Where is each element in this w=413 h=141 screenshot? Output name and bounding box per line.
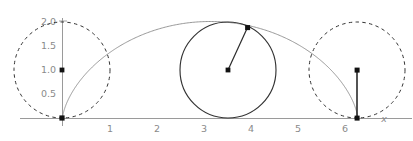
y-tick-label-1-0: 1.0 [41,64,56,75]
marker-circle-start-center [60,68,65,73]
axes-group [20,18,412,126]
marker-origin-point [59,115,64,120]
x-tick-label-1: 1 [107,123,113,134]
x-tick-label-2: 2 [154,123,160,134]
point-markers-group [59,25,359,121]
y-tick-label-1-5: 1.5 [41,40,56,51]
x-tick-label-6: 6 [342,123,348,134]
x-tick-label-5: 5 [295,123,301,134]
x-tick-label-3: 3 [201,123,207,134]
x-tick-labels: 1 2 3 4 5 6 [107,123,348,134]
y-tick-label-2-0: 2.0 [41,16,56,27]
marker-circle-middle-center [226,68,231,73]
x-axis-label: x [380,113,387,124]
radius-line-middle [228,28,248,71]
x-tick-label-4: 4 [248,123,254,134]
cycloid-figure: 2.0 1.5 1.0 0.5 1 2 3 4 5 6 x [0,0,413,141]
cycloid-curve [63,22,358,119]
circles-group [14,22,405,118]
marker-end-point [355,116,360,121]
marker-circle-end-center [355,68,360,73]
y-tick-label-0-5: 0.5 [41,88,56,99]
plot-canvas: 2.0 1.5 1.0 0.5 1 2 3 4 5 6 x [0,0,413,141]
y-tick-labels: 2.0 1.5 1.0 0.5 [41,16,56,99]
marker-tracing-point-middle [245,25,250,30]
